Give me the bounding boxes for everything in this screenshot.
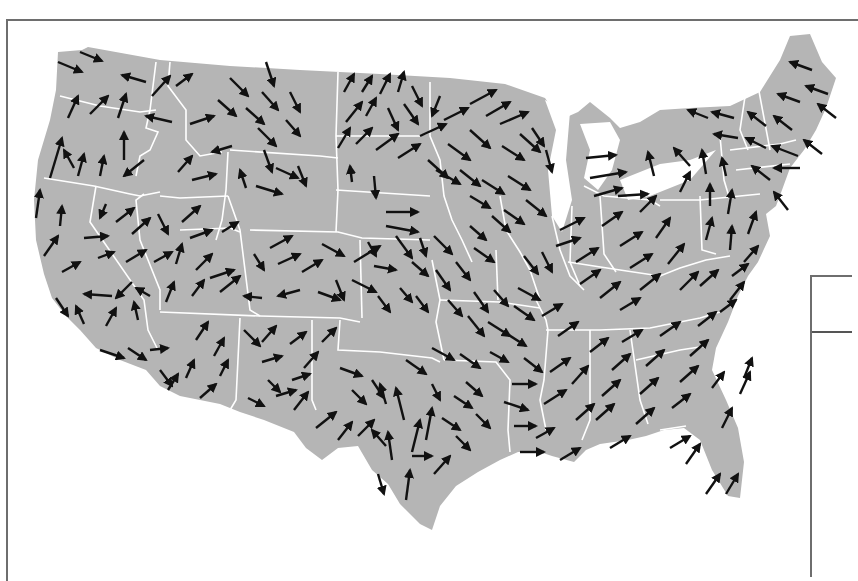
legend-box [810,275,852,577]
legend-header [812,277,852,333]
